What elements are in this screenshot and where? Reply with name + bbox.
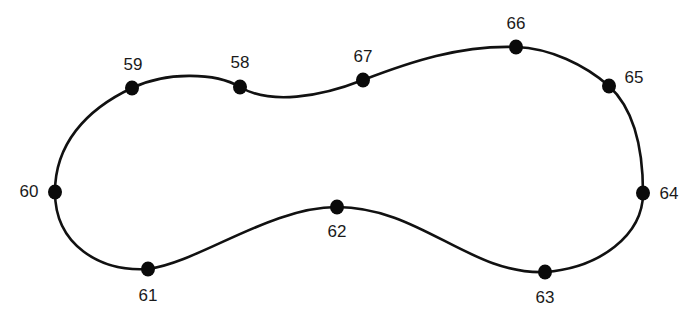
point-marker-64: [636, 186, 650, 201]
loop-curve: [55, 47, 643, 272]
point-label-63: 63: [536, 289, 555, 306]
point-label-60: 60: [20, 183, 39, 200]
closed-loop-diagram: [0, 0, 695, 322]
point-label-62: 62: [328, 223, 347, 240]
point-markers: [48, 40, 650, 280]
point-label-66: 66: [507, 15, 526, 32]
point-label-64: 64: [660, 185, 679, 202]
point-marker-60: [48, 185, 62, 200]
point-marker-65: [602, 79, 616, 94]
point-marker-63: [538, 265, 552, 280]
point-marker-67: [356, 73, 370, 88]
point-marker-59: [125, 81, 139, 96]
point-label-67: 67: [354, 48, 373, 65]
point-marker-62: [330, 200, 344, 215]
point-marker-58: [233, 80, 247, 95]
point-marker-61: [141, 262, 155, 277]
point-label-59: 59: [124, 56, 143, 73]
point-label-61: 61: [139, 287, 158, 304]
point-label-58: 58: [231, 54, 250, 71]
point-label-65: 65: [625, 69, 644, 86]
point-marker-66: [509, 40, 523, 55]
